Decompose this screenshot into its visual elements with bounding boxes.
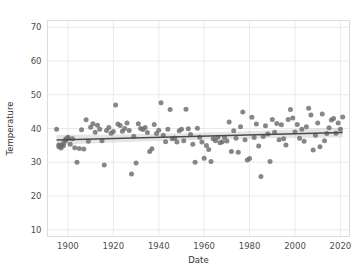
x-tick-label: 1920	[103, 241, 125, 251]
y-tick-label: 20	[31, 191, 42, 201]
x-tick-label: 1900	[57, 241, 79, 251]
x-tick-label: 1940	[148, 241, 170, 251]
y-tick-label: 50	[31, 90, 42, 100]
y-axis-title: Temperature	[5, 102, 15, 157]
y-tick-label: 10	[31, 225, 42, 235]
x-tick-label: 1980	[239, 241, 261, 251]
x-tick-label: 2000	[284, 241, 306, 251]
y-tick-label: 70	[31, 22, 42, 32]
temperature-scatter-figure: 10203040506070 1900192019401960198020002…	[0, 0, 360, 277]
y-tick-label: 30	[31, 157, 42, 167]
y-tick-label: 40	[31, 124, 42, 134]
x-tick-label: 1960	[193, 241, 215, 251]
chart-canvas: 10203040506070 1900192019401960198020002…	[0, 0, 360, 277]
y-tick-label: 60	[31, 56, 42, 66]
x-axis-title: Date	[188, 255, 208, 265]
x-tick-label: 2020	[330, 241, 352, 251]
